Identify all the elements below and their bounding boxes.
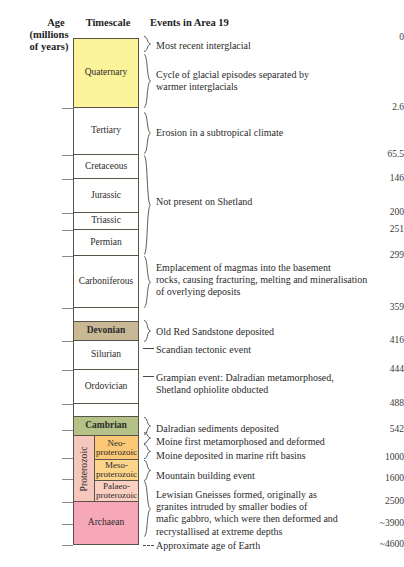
age-tick-mark [62,545,73,546]
period-band-quaternary: Quaternary [73,38,139,108]
event-description: Old Red Sandstone deposited [156,326,274,338]
period-band-unlabeled [73,404,139,417]
period-band-permian: Permian [73,230,139,256]
age-tick-mark [62,370,73,371]
age-tick-label: 65.5 [336,149,404,159]
dash-connector [143,376,154,377]
period-band-unlabeled [73,308,139,322]
period-band-tertiary: Tertiary [73,108,139,155]
brace-connector [143,256,152,308]
age-tick-label: 488 [336,398,404,408]
age-tick-mark [62,502,73,503]
brace-connector [143,444,152,459]
period-band-ordovician: Ordovician [73,370,139,404]
column-header-timescale: Timescale [76,17,140,28]
age-tick-label: ~4600 [336,539,404,549]
event-description: Moine deposited in marine rift basins [156,450,306,462]
brace-connector [143,320,152,342]
event-description: Scandian tectonic event [156,344,251,356]
era-label-proterozoic-text: Proterozoic [79,446,89,491]
period-band-triassic: Triassic [73,213,139,230]
column-header-age: Age [30,17,82,28]
brace-connector [143,36,152,52]
period-band-jurassic: Jurassic [73,179,139,213]
dotted-connector [143,545,154,546]
event-description: Moine first metamorphosed and deformed [156,436,325,448]
age-tick-label: 416 [336,335,404,345]
age-tick-mark [62,458,73,459]
brace-connector [143,112,152,154]
subperiod-band: Palaeo- proterozoic [95,481,139,502]
age-tick-label: 146 [336,173,404,183]
period-band-cambrian: Cambrian [73,417,139,436]
event-description: Dalradian sediments deposited [156,423,279,435]
event-description: Not present on Shetland [156,196,252,208]
age-tick-label: 2.6 [336,102,404,112]
event-description: Erosion in a subtropical climate [156,127,283,139]
age-tick-mark [62,308,73,309]
brace-connector [143,432,152,444]
age-tick-mark [62,230,73,231]
age-tick-mark [62,256,73,257]
age-tick-mark [62,479,73,480]
age-tick-mark [62,430,73,431]
age-tick-label: 200 [336,207,404,217]
age-tick-mark [62,341,73,342]
age-tick-label: ~3900 [336,518,404,528]
period-band-cretaceous: Cretaceous [73,155,139,179]
geologic-timescale-figure: Age (millions of years) Timescale Events… [0,0,404,567]
brace-connector [143,460,152,481]
event-description: Grampian event: Dalradian metamorphosed,… [156,372,334,396]
event-description: Approximate age of Earth [156,540,260,552]
event-description: Mountain building event [156,470,255,482]
age-tick-mark [62,179,73,180]
age-tick-label: 0 [336,32,404,42]
brace-connector [143,155,152,255]
age-tick-label: 444 [336,364,404,374]
event-description: Emplacement of magmas into the basement … [156,262,367,299]
dash-connector [143,348,154,349]
age-tick-label: 2500 [336,496,404,506]
age-tick-label: 299 [336,250,404,260]
period-band-carboniferous: Carboniferous [73,256,139,308]
age-tick-label: 1000 [336,452,404,462]
period-band-devonian: Devonian [73,322,139,341]
age-tick-label: 251 [336,224,404,234]
age-tick-mark [62,108,73,109]
age-tick-label: 359 [336,302,404,312]
age-tick-mark [62,524,73,525]
brace-connector [143,481,152,537]
age-tick-mark [62,404,73,405]
subperiod-band: Neo- proterozoic [95,436,139,460]
age-tick-label: 542 [336,424,404,434]
brace-connector [143,54,152,108]
age-tick-mark [62,155,73,156]
event-description: Most recent interglacial [156,40,251,52]
column-header-events: Events in Area 19 [150,17,229,28]
period-band-silurian: Silurian [73,341,139,370]
event-description: Cycle of glacial episodes separated by w… [156,69,309,93]
age-tick-mark [62,213,73,214]
period-band-archaean: Archaean [73,502,139,545]
subperiod-band: Meso- proterozoic [95,460,139,481]
event-description: Lewisian Gneisses formed, originally as … [156,489,338,538]
era-label-proterozoic: Proterozoic [73,436,95,502]
age-tick-label: 1600 [336,473,404,483]
